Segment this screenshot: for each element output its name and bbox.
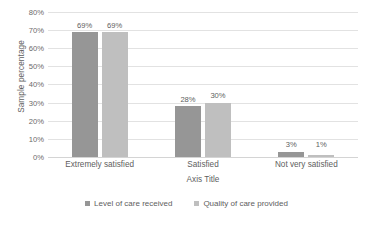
legend-swatch-icon	[85, 201, 90, 206]
bar-chart: Sample percentage 80% 70% 60% 50% 40% 30…	[0, 0, 373, 226]
y-axis-tick-label: 20%	[18, 117, 44, 126]
bar-quality-of-care-provided[interactable]	[308, 155, 334, 157]
y-axis-tick-label: 80%	[18, 8, 44, 17]
bar-value-label: 3%	[286, 140, 297, 149]
y-axis-tick-labels: 80% 70% 60% 50% 40% 30% 20% 10% 0%	[18, 0, 44, 226]
legend-swatch-icon	[194, 201, 199, 206]
legend-label: Level of care received	[94, 199, 172, 208]
x-axis-category-labels: Extremely satisfied Satisfied Not very s…	[48, 160, 358, 169]
bar-pair: 3% 1%	[278, 12, 334, 157]
bar-slot: 30%	[205, 12, 231, 157]
axis-baseline	[48, 157, 358, 158]
y-axis-tick-label: 40%	[18, 80, 44, 89]
bar-slot: 69%	[72, 12, 98, 157]
bar-group-extremely-satisfied: 69% 69%	[48, 12, 151, 157]
bar-quality-of-care-provided[interactable]	[102, 32, 128, 157]
bar-value-label: 69%	[107, 21, 122, 30]
y-axis-tick-label: 0%	[18, 153, 44, 162]
bar-level-of-care-received[interactable]	[278, 152, 304, 157]
y-axis-tick-label: 70%	[18, 26, 44, 35]
bar-slot: 3%	[278, 12, 304, 157]
legend-label: Quality of care provided	[203, 199, 288, 208]
y-axis-tick-label: 10%	[18, 135, 44, 144]
bar-pair: 69% 69%	[72, 12, 128, 157]
chart-legend: Level of care received Quality of care p…	[0, 199, 373, 208]
bar-slot: 1%	[308, 12, 334, 157]
legend-item-quality-of-care-provided[interactable]: Quality of care provided	[194, 199, 288, 208]
x-axis-title: Axis Title	[48, 175, 358, 184]
y-axis-tick-label: 30%	[18, 99, 44, 108]
bar-level-of-care-received[interactable]	[175, 106, 201, 157]
bar-slot: 28%	[175, 12, 201, 157]
x-axis-tick-label: Extremely satisfied	[48, 160, 151, 169]
x-axis-tick-label: Not very satisfied	[255, 160, 358, 169]
plot-area: 69% 69% 28% 30%	[48, 12, 358, 157]
y-axis-tick-label: 60%	[18, 44, 44, 53]
bar-slot: 69%	[102, 12, 128, 157]
bar-groups: 69% 69% 28% 30%	[48, 12, 358, 157]
legend-item-level-of-care-received[interactable]: Level of care received	[85, 199, 172, 208]
bar-value-label: 1%	[316, 140, 327, 149]
bar-level-of-care-received[interactable]	[72, 32, 98, 157]
bar-group-not-very-satisfied: 3% 1%	[255, 12, 358, 157]
x-axis-tick-label: Satisfied	[151, 160, 254, 169]
bar-quality-of-care-provided[interactable]	[205, 103, 231, 157]
bar-value-label: 28%	[180, 95, 195, 104]
bar-group-satisfied: 28% 30%	[151, 12, 254, 157]
bar-pair: 28% 30%	[175, 12, 231, 157]
y-axis-tick-label: 50%	[18, 62, 44, 71]
bar-value-label: 69%	[77, 21, 92, 30]
bar-value-label: 30%	[210, 91, 225, 100]
